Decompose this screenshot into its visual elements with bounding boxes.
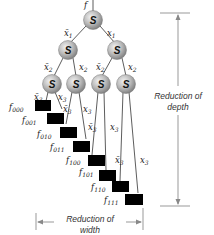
depth-dimension: Reduction of depth xyxy=(154,13,203,206)
edge-label-x3: x3 xyxy=(83,104,92,115)
svg-text:S: S xyxy=(73,79,80,90)
svg-text:f110: f110 xyxy=(90,182,106,193)
arrow-down-icon xyxy=(176,199,181,205)
edge-to-f110 xyxy=(120,92,123,181)
svg-text:S: S xyxy=(114,45,121,56)
s-node-level2-0: S xyxy=(43,75,62,94)
s-node-level1-left: S xyxy=(59,41,78,60)
width-dimension: Reduction of width xyxy=(36,208,143,235)
arrow-up-icon xyxy=(176,14,181,20)
edge-label-x1: x1 xyxy=(107,28,116,39)
depth-caption-line2: depth xyxy=(167,102,189,112)
svg-text:S: S xyxy=(49,79,56,90)
arrow-left-icon xyxy=(37,220,43,225)
width-caption-line2: width xyxy=(80,225,100,235)
edge-label-x3: x3 xyxy=(58,92,67,103)
s-node-level2-3: S xyxy=(117,75,136,94)
svg-text:S: S xyxy=(65,45,72,56)
svg-text:S: S xyxy=(123,79,130,90)
arrow-right-icon xyxy=(136,220,142,225)
leaf-f002: f010 xyxy=(36,127,77,140)
edge-l2-0-right xyxy=(73,58,76,76)
leaf-f111: f111 xyxy=(103,194,143,206)
leaf-f100: f100 xyxy=(65,155,105,166)
s-node-level1-right: S xyxy=(108,41,127,60)
svg-text:S: S xyxy=(98,79,105,90)
edge-to-f011 xyxy=(79,92,86,139)
edge-label-x3-bar: x̄3 xyxy=(115,155,124,166)
svg-text:f011: f011 xyxy=(49,142,65,153)
svg-text:f001: f001 xyxy=(21,115,37,126)
svg-text:f101: f101 xyxy=(78,167,94,178)
edge-label-x2: x2 xyxy=(79,62,88,73)
svg-text:f000: f000 xyxy=(8,102,24,113)
edge-label-x2-bar: x̄2 xyxy=(44,62,53,73)
tree-diagram: f x̄1 x1 x̄2 x2 x̄2 x2 x̄3 x3 x̄3 x3 x̄3… xyxy=(0,0,214,235)
svg-text:f100: f100 xyxy=(65,155,81,166)
edge-label-x2: x2 xyxy=(128,62,137,73)
s-node-level2-2: S xyxy=(92,75,111,94)
leaf-f110: f110 xyxy=(90,181,129,193)
edge-to-f100 xyxy=(92,92,98,155)
s-node-root: S xyxy=(84,11,103,30)
leaf-f101: f101 xyxy=(78,167,116,181)
svg-text:S: S xyxy=(90,15,97,26)
edge-label-x3-bar: x̄3 xyxy=(63,104,72,115)
svg-text:f111: f111 xyxy=(103,195,119,206)
leaf-f011: f011 xyxy=(49,141,90,153)
edge-label-x3-bar: x̄3 xyxy=(88,122,97,133)
edge-to-f111 xyxy=(129,92,138,193)
width-caption-line1: Reduction of xyxy=(66,214,115,224)
edge-label-x3: x3 xyxy=(110,122,119,133)
edge-label-x1-bar: x̄1 xyxy=(64,28,73,39)
s-node-level2-1: S xyxy=(67,75,86,94)
leaf-f000: f000 xyxy=(8,100,51,113)
edge-l2-0-left xyxy=(54,58,63,76)
edge-to-f000 xyxy=(46,92,48,101)
svg-text:f010: f010 xyxy=(36,129,52,140)
input-label: f xyxy=(83,0,89,10)
depth-caption-line1: Reduction of xyxy=(154,91,203,101)
edge-label-x3: x3 xyxy=(140,155,149,166)
edge-label-x2-bar: x̄2 xyxy=(96,62,105,73)
edge-l2-1-right xyxy=(122,58,126,76)
leaf-f001: f001 xyxy=(21,113,64,126)
